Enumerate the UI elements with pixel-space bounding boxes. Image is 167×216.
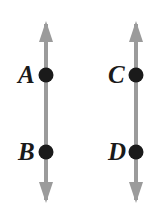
point-label-d: D	[108, 139, 126, 164]
left-line-bottom-arrowhead	[39, 182, 53, 203]
figure-svg	[0, 0, 167, 216]
geometry-figure: A B C D	[0, 0, 167, 216]
point-label-c: C	[108, 62, 125, 87]
left-line-top-arrowhead	[39, 21, 53, 42]
point-dot-a	[39, 68, 54, 83]
point-dot-d	[129, 145, 144, 160]
point-dot-b	[39, 145, 54, 160]
point-label-a: A	[18, 62, 35, 87]
right-line-top-arrowhead	[129, 21, 143, 42]
right-line-bottom-arrowhead	[129, 182, 143, 203]
point-label-b: B	[18, 139, 35, 164]
point-dot-c	[129, 68, 144, 83]
